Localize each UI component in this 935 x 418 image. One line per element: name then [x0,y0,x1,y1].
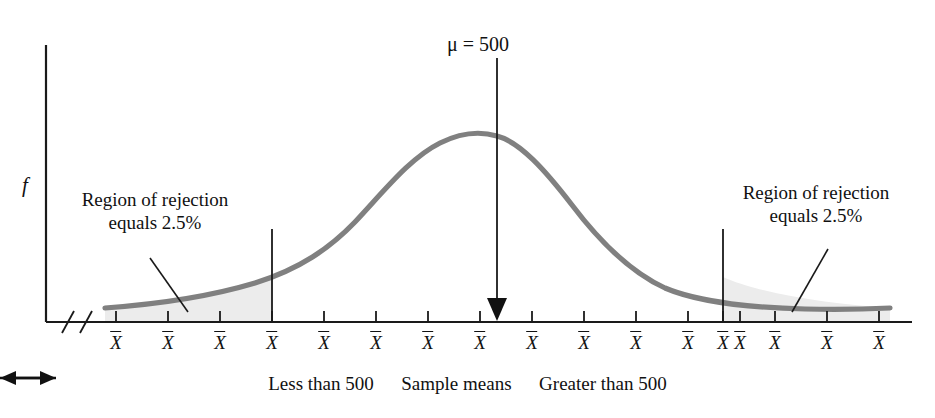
x-bar-glyph: X [821,333,833,352]
x-tick-label: X [821,331,833,352]
x-tick-label: X [578,331,590,352]
x-tick-label: X [717,331,729,352]
x-tick-label: X [422,331,434,352]
x-tick-label: X [110,331,122,352]
mu-arrowhead-icon [487,298,507,321]
x-tick-label: X [474,331,486,352]
sampling-distribution-figure: f μ = 500 Region of rejection equals 2.5… [0,0,935,418]
x-bar-glyph: X [717,333,729,352]
x-bar-glyph: X [769,333,781,352]
x-bar-glyph: X [630,333,642,352]
caption-sample-means: Sample means [401,373,511,394]
y-axis-label: f [22,173,28,198]
mu-annotation-label: μ = 500 [447,33,509,56]
x-tick-label: X [873,331,885,352]
x-bar-glyph: X [682,333,694,352]
right-rejection-region-label: Region of rejection equals 2.5% [716,181,916,227]
x-bar-glyph: X [422,333,434,352]
caption-greater-than: Greater than 500 [539,373,667,394]
x-tick-label: X [682,331,694,352]
x-tick-label: X [318,331,330,352]
x-bar-glyph: X [474,333,486,352]
x-bar-glyph: X [526,333,538,352]
x-bar-glyph: X [266,333,278,352]
x-bar-glyph: X [578,333,590,352]
x-bar-glyph: X [318,333,330,352]
x-bar-glyph: X [162,333,174,352]
x-tick-label: X [526,331,538,352]
x-bar-glyph: X [873,333,885,352]
right-rejection-region-shading [723,277,890,322]
x-bar-glyph: X [370,333,382,352]
x-bar-glyph: X [110,333,122,352]
caption-less-than: Less than 500 [268,373,374,394]
x-tick-label: X [266,331,278,352]
x-tick-label: X [214,331,226,352]
x-axis-caption: Less than 500 Sample means Greater than … [0,371,935,395]
left-rejection-line-2: equals 2.5% [60,211,250,234]
x-tick-label: X [734,331,746,352]
right-rejection-line-2: equals 2.5% [716,204,916,227]
x-tick-label: X [630,331,642,352]
left-rejection-region-label: Region of rejection equals 2.5% [60,188,250,234]
left-rejection-line-1: Region of rejection [60,188,250,211]
x-tick-label: X [370,331,382,352]
x-bar-glyph: X [734,333,746,352]
x-bar-glyph: X [214,333,226,352]
right-rejection-line-1: Region of rejection [716,181,916,204]
x-tick-label: X [769,331,781,352]
x-tick-label: X [162,331,174,352]
